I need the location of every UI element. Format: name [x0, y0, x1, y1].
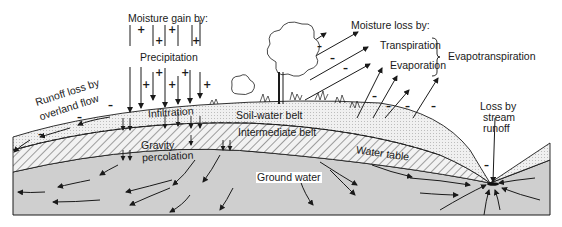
- moisture-loss-label: Moisture loss by:: [351, 20, 430, 31]
- loss-sign: –: [372, 92, 377, 102]
- transpiration-label: Transpiration: [380, 40, 441, 51]
- soil-water-belt-label: Soil-water belt: [235, 110, 304, 121]
- stream-loss-label-line3: runoff: [483, 123, 510, 134]
- gain-sign: +: [155, 36, 163, 46]
- gain-sign: +: [142, 80, 150, 90]
- gain-sign: +: [137, 25, 145, 35]
- precipitation-label: Precipitation: [140, 52, 198, 63]
- moisture-gain-label: Moisture gain by:: [128, 13, 208, 24]
- loss-sign: –: [330, 54, 335, 64]
- gravity-label-line2: percolation: [142, 150, 194, 163]
- loss-sign: –: [484, 161, 489, 171]
- intermediate-belt-label: Intermediate belt: [238, 127, 316, 138]
- evapotranspiration-label: Evapotranspiration: [448, 51, 536, 62]
- gain-sign: +: [168, 80, 176, 90]
- loss-sign: –: [343, 64, 348, 74]
- loss-sign: –: [431, 102, 436, 112]
- gain-sign: +: [181, 68, 189, 78]
- loss-sign: –: [405, 102, 410, 112]
- loss-sign: –: [38, 130, 43, 140]
- gain-sign: +: [155, 68, 163, 78]
- stream-channel: [487, 182, 499, 186]
- stream-loss-label-line2: stream: [483, 112, 515, 123]
- loss-sign: –: [317, 42, 322, 52]
- gain-sign: +: [192, 36, 200, 46]
- tree-illustration: [232, 22, 320, 104]
- gain-sign: +: [203, 80, 211, 90]
- hydrologic-cycle-diagram: Moisture gain by: Precipitation Infiltra…: [0, 0, 562, 227]
- evaporation-label: Evaporation: [390, 60, 446, 71]
- ground-water-label: Ground water: [256, 172, 322, 183]
- gain-sign: +: [168, 25, 176, 35]
- loss-sign: –: [386, 102, 391, 112]
- loss-sign: –: [77, 113, 82, 123]
- loss-sign: –: [108, 101, 113, 111]
- stream-loss-label-line1: Loss by: [480, 101, 516, 112]
